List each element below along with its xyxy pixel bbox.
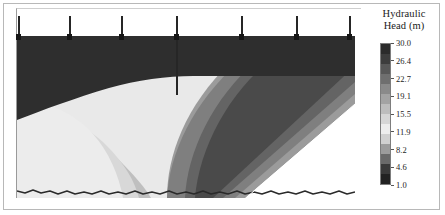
colorbar-tick-8: 1.0 xyxy=(391,180,407,190)
tick-mark-icon xyxy=(391,114,394,115)
colorbar-band-8 xyxy=(381,124,390,134)
colorbar-tick-5: 11.9 xyxy=(391,127,411,137)
colorbar-tick-7: 4.6 xyxy=(391,162,407,172)
colorbar-wrapper: 30.026.422.719.115.511.98.24.61.0 xyxy=(380,38,438,190)
tick-label: 19.1 xyxy=(396,91,411,101)
colorbar-band-2 xyxy=(381,64,390,74)
tick-mark-icon xyxy=(391,149,394,150)
tick-label: 11.9 xyxy=(396,127,411,137)
tick-label: 22.7 xyxy=(396,74,411,84)
colorbar-band-4 xyxy=(381,84,390,94)
contour-band-group xyxy=(17,36,355,198)
tick-mark-icon xyxy=(391,185,394,186)
colorbar-tick-2: 22.7 xyxy=(391,74,411,84)
tick-mark-icon xyxy=(391,60,394,61)
well-3-cap xyxy=(119,34,124,40)
tick-label: 1.0 xyxy=(396,180,407,190)
tick-mark-icon xyxy=(391,78,394,79)
tick-label: 4.6 xyxy=(396,162,407,172)
well-2-cap xyxy=(67,34,72,40)
tick-label: 15.5 xyxy=(396,109,411,119)
colorbar-tick-3: 19.1 xyxy=(391,91,411,101)
colorbar-band-13 xyxy=(381,174,390,184)
colorbar-tick-0: 30.0 xyxy=(391,38,411,48)
hydraulic-head-figure: Hydraulic Head (m) 30.026.422.719.115.51… xyxy=(0,0,445,215)
legend-title-line2: Head (m) xyxy=(368,20,440,32)
colorbar-gradient xyxy=(380,43,391,185)
tick-mark-icon xyxy=(391,43,394,44)
colorbar-band-3 xyxy=(381,74,390,84)
tick-mark-icon xyxy=(391,131,394,132)
colorbar-band-7 xyxy=(381,114,390,124)
well-7-cap xyxy=(347,34,352,40)
well-4-deep-screen xyxy=(176,40,178,95)
colorbar-tick-4: 15.5 xyxy=(391,109,411,119)
colorbar-band-9 xyxy=(381,134,390,144)
colorbar-legend: Hydraulic Head (m) 30.026.422.719.115.51… xyxy=(368,8,440,198)
tick-label: 26.4 xyxy=(396,56,411,66)
well-5-cap xyxy=(239,34,244,40)
colorbar-band-6 xyxy=(381,104,390,114)
cross-section-plot xyxy=(17,36,355,198)
colorbar-band-1 xyxy=(381,54,390,64)
well-1-cap xyxy=(16,34,21,40)
tick-label: 8.2 xyxy=(396,145,407,155)
legend-title-line1: Hydraulic xyxy=(368,8,440,20)
colorbar-band-11 xyxy=(381,154,390,164)
tick-mark-icon xyxy=(391,167,394,168)
colorbar-band-5 xyxy=(381,94,390,104)
colorbar-tick-6: 8.2 xyxy=(391,145,407,155)
colorbar-band-12 xyxy=(381,164,390,174)
well-6-cap xyxy=(294,34,299,40)
tick-label: 30.0 xyxy=(396,38,411,48)
colorbar-tick-1: 26.4 xyxy=(391,56,411,66)
tick-mark-icon xyxy=(391,96,394,97)
colorbar-band-0 xyxy=(381,44,390,54)
colorbar-band-10 xyxy=(381,144,390,154)
